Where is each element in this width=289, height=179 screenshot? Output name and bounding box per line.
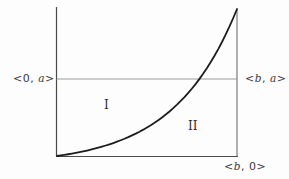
diagram-svg	[0, 0, 289, 179]
figure-canvas: <0, a> <b, a> <b, 0> I II	[0, 0, 289, 179]
exponential-curve	[57, 9, 237, 156]
label-left-endpoint: <0, a>	[13, 72, 55, 85]
label-right-endpoint: <b, a>	[245, 72, 286, 85]
label-region-one: I	[104, 99, 109, 112]
label-region-two: II	[188, 120, 197, 133]
label-bottom-endpoint: <b, 0>	[224, 160, 266, 173]
